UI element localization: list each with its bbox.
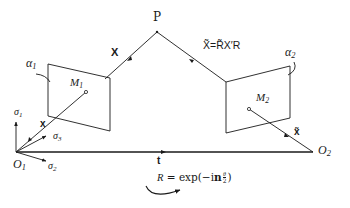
image-vector-right bbox=[249, 109, 313, 152]
image-vector-left bbox=[16, 92, 86, 152]
alpha2-hook bbox=[288, 62, 295, 75]
label-R-tilde-X-R: R̃X′R bbox=[216, 39, 240, 51]
label-X-tilde: X̃ bbox=[203, 39, 210, 51]
M2-dot bbox=[247, 107, 250, 110]
rotation-equation: R = exp(−inθ2) bbox=[157, 171, 232, 184]
label-sigma2: σ2 bbox=[48, 161, 56, 171]
sigma3-sub: 3 bbox=[58, 135, 62, 143]
M1-sub: 1 bbox=[79, 81, 83, 90]
rotation-arrow bbox=[146, 186, 180, 194]
label-M1: M1 bbox=[70, 77, 83, 88]
rotation-fraction: θ2 bbox=[223, 171, 227, 184]
label-X: X bbox=[111, 47, 118, 58]
fraction-two: 2 bbox=[223, 178, 227, 184]
O2-sub: 2 bbox=[327, 149, 331, 158]
O2-symbol: O bbox=[318, 143, 327, 157]
M1-dot bbox=[84, 90, 87, 93]
label-x-tilde: x̃ bbox=[294, 127, 300, 137]
sigma1-sub: 1 bbox=[19, 111, 23, 119]
sigma2-sub: 2 bbox=[53, 165, 57, 173]
M2-sub: 2 bbox=[265, 96, 269, 105]
rotation-exp: = exp(−i bbox=[163, 171, 214, 183]
M1-symbol: M bbox=[70, 76, 79, 88]
label-t: t bbox=[157, 156, 160, 166]
rotation-close-paren: ) bbox=[227, 171, 231, 183]
point-P-dot bbox=[156, 31, 158, 33]
label-x: x bbox=[40, 119, 46, 129]
rotation-n: n bbox=[214, 171, 222, 183]
label-P: P bbox=[153, 11, 161, 23]
alpha2-sub: 2 bbox=[291, 51, 295, 60]
label-M2: M2 bbox=[256, 92, 269, 103]
M2-symbol: M bbox=[256, 91, 265, 103]
label-alpha2: α2 bbox=[285, 46, 296, 58]
label-X-tilde-equation: X̃=R̃X′R bbox=[203, 40, 240, 51]
label-sigma3: σ3 bbox=[53, 131, 61, 141]
O1-sub: 1 bbox=[22, 163, 26, 172]
label-sigma1: σ1 bbox=[14, 107, 22, 117]
baseline-arrow-icon bbox=[161, 150, 166, 154]
label-O2: O2 bbox=[318, 144, 331, 156]
alpha1-sub: 1 bbox=[32, 62, 36, 71]
ray-right-arrow-icon bbox=[189, 59, 194, 63]
label-alpha1: α1 bbox=[26, 57, 37, 69]
label-O1: O1 bbox=[13, 158, 26, 170]
O1-symbol: O bbox=[13, 157, 22, 171]
axis-sigma3 bbox=[16, 136, 46, 152]
image-vector-left-arrow-icon bbox=[28, 137, 32, 142]
